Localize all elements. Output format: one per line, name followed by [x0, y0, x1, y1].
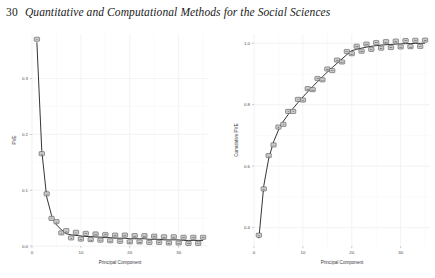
data-point-marker: 15	[103, 232, 108, 236]
svg-text:0.1: 0.1	[22, 188, 29, 193]
data-point-marker: 1	[34, 37, 39, 41]
data-point-marker: 14	[320, 78, 325, 82]
data-point-marker: 26	[378, 46, 383, 50]
running-title: Quantitative and Computational Methods f…	[25, 6, 330, 18]
data-point-marker: 20	[349, 52, 354, 56]
svg-text:Cumulative PVE: Cumulative PVE	[234, 123, 239, 156]
data-point-marker: 6	[59, 231, 64, 235]
data-point-marker: 3	[266, 154, 271, 158]
data-point-marker: 17	[334, 58, 339, 62]
figure-scree-plots: 1234567891011121314151617181920212223242…	[0, 24, 435, 278]
data-point-marker: 9	[295, 97, 300, 101]
data-point-marker: 28	[166, 241, 171, 245]
svg-text:0.3: 0.3	[22, 76, 29, 81]
data-point-marker: 29	[171, 235, 176, 239]
svg-text:0.4: 0.4	[244, 225, 251, 230]
cumulative-pve-chart: 1234567891011121314151617181920212223242…	[218, 24, 435, 278]
data-point-marker: 16	[330, 68, 335, 72]
svg-text:0.6: 0.6	[244, 164, 251, 169]
data-point-marker: 14	[98, 238, 103, 242]
data-point-marker: 22	[137, 240, 142, 244]
data-point-marker: 23	[364, 42, 369, 46]
data-point-marker: 19	[122, 233, 127, 237]
svg-text:10: 10	[78, 250, 83, 255]
data-point-marker: 23	[142, 234, 147, 238]
data-point-marker: 3	[44, 192, 49, 196]
svg-text:Principal Component: Principal Component	[99, 260, 142, 265]
data-point-marker: 31	[403, 38, 408, 42]
data-point-marker: 17	[112, 233, 117, 237]
svg-text:0: 0	[253, 250, 256, 255]
data-point-marker: 2	[39, 152, 44, 156]
svg-text:20: 20	[349, 250, 354, 255]
data-point-marker: 2	[261, 187, 266, 191]
data-point-marker: 9	[73, 230, 78, 234]
svg-text:0.0: 0.0	[22, 244, 29, 249]
data-point-marker: 18	[117, 239, 122, 243]
data-point-marker: 27	[383, 40, 388, 44]
data-point-marker: 27	[161, 235, 166, 239]
data-point-marker: 6	[281, 122, 286, 126]
data-point-marker: 21	[354, 44, 359, 48]
data-point-marker: 22	[359, 49, 364, 53]
data-point-marker: 11	[83, 231, 88, 235]
data-point-marker: 8	[290, 109, 295, 113]
data-point-marker: 12	[310, 88, 315, 92]
svg-text:0: 0	[31, 250, 34, 255]
data-point-marker: 32	[186, 241, 191, 245]
chart-panel-pve: 1234567891011121314151617181920212223242…	[0, 24, 217, 278]
data-point-marker: 20	[127, 240, 132, 244]
data-point-marker: 25	[152, 234, 157, 238]
data-point-marker: 5	[54, 220, 59, 224]
data-point-marker: 18	[339, 60, 344, 64]
pve-chart: 1234567891011121314151617181920212223242…	[0, 24, 217, 278]
data-point-marker: 7	[64, 229, 69, 233]
data-point-marker: 13	[93, 232, 98, 236]
svg-text:0.2: 0.2	[22, 132, 29, 137]
data-point-marker: 35	[200, 235, 205, 239]
data-point-marker: 28	[388, 45, 393, 49]
data-point-marker: 24	[147, 240, 152, 244]
page-number: 30	[6, 6, 18, 18]
running-head: 30 Quantitative and Computational Method…	[0, 0, 435, 24]
data-point-marker: 21	[132, 234, 137, 238]
data-point-marker: 30	[176, 241, 181, 245]
svg-text:1.0: 1.0	[244, 41, 251, 46]
data-point-marker: 29	[393, 39, 398, 43]
data-point-marker: 34	[418, 44, 423, 48]
data-point-marker: 4	[271, 143, 276, 147]
data-point-marker: 12	[88, 238, 93, 242]
svg-text:0.8: 0.8	[244, 102, 251, 107]
svg-text:Principal Component: Principal Component	[321, 260, 364, 265]
data-point-marker: 19	[344, 49, 349, 53]
data-point-marker: 13	[315, 76, 320, 80]
data-point-marker: 25	[374, 40, 379, 44]
data-point-marker: 8	[68, 236, 73, 240]
data-point-marker: 31	[181, 235, 186, 239]
data-point-marker: 33	[413, 38, 418, 42]
data-point-marker: 10	[78, 237, 83, 241]
data-point-marker: 35	[422, 38, 427, 42]
svg-text:PVE: PVE	[12, 135, 17, 144]
data-point-marker: 15	[325, 67, 330, 71]
data-point-marker: 24	[369, 47, 374, 51]
data-point-marker: 10	[300, 98, 305, 102]
svg-text:20: 20	[127, 250, 132, 255]
svg-text:30: 30	[398, 250, 403, 255]
data-point-marker: 16	[108, 239, 113, 243]
data-point-marker: 33	[191, 235, 196, 239]
data-point-marker: 34	[196, 241, 201, 245]
data-point-marker: 4	[49, 216, 54, 220]
data-point-marker: 11	[305, 87, 310, 91]
chart-panel-cumulative-pve: 1234567891011121314151617181920212223242…	[218, 24, 435, 278]
data-point-marker: 32	[408, 45, 413, 49]
data-point-marker: 5	[276, 125, 281, 129]
data-point-marker: 26	[156, 240, 161, 244]
data-point-marker: 1	[256, 233, 261, 237]
data-point-marker: 7	[286, 109, 291, 113]
svg-text:10: 10	[300, 250, 305, 255]
svg-text:30: 30	[176, 250, 181, 255]
data-point-marker: 30	[398, 45, 403, 49]
